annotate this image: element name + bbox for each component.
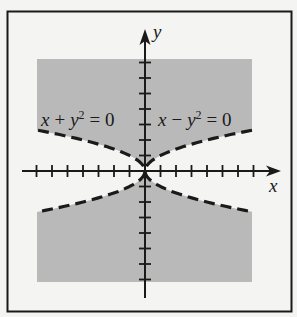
x-axis-label: x: [268, 175, 278, 196]
y-axis-label: y: [151, 21, 162, 42]
graph-figure: y x x+y2= 0 x−y2= 0: [0, 0, 297, 317]
